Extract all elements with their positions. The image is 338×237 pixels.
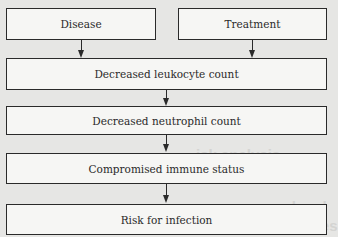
node-label: Decreased neutrophil count — [92, 115, 240, 127]
node-decreased-leukocyte-count: Decreased leukocyte count — [6, 58, 327, 90]
node-label: Compromised immune status — [89, 163, 245, 175]
node-disease: Disease — [6, 8, 156, 40]
node-decreased-neutrophil-count: Decreased neutrophil count — [6, 106, 327, 135]
node-compromised-immune-status: Compromised immune status — [6, 153, 327, 184]
node-label: Treatment — [225, 18, 281, 30]
node-risk-for-infection: Risk for infection — [6, 204, 327, 235]
node-label: Risk for infection — [121, 214, 213, 226]
node-treatment: Treatment — [178, 8, 327, 40]
node-label: Disease — [60, 18, 101, 30]
node-label: Decreased leukocyte count — [94, 68, 238, 80]
